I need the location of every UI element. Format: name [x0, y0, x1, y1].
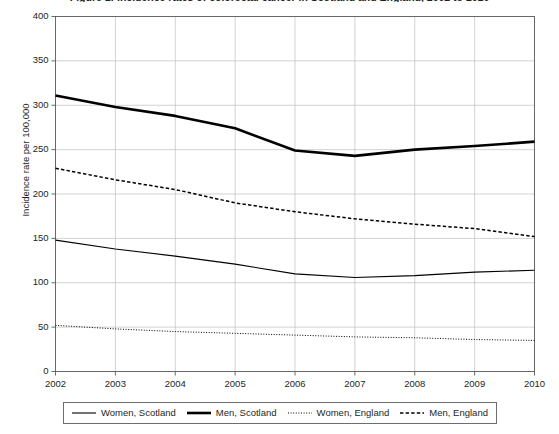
- legend-label: Women, Scotland: [101, 408, 176, 418]
- legend-item[interactable]: Women, Scotland: [72, 408, 176, 418]
- legend-line-icon: [187, 408, 211, 418]
- legend-label: Women, England: [317, 408, 390, 418]
- legend-line-icon: [400, 408, 424, 418]
- legend-item[interactable]: Men, Scotland: [187, 408, 277, 418]
- y-tick-label: 400: [33, 10, 49, 21]
- line-chart: Figure 1: Incidence rates of colorectal …: [0, 0, 559, 434]
- y-tick-label: 300: [33, 99, 49, 110]
- legend-label: Men, Scotland: [216, 408, 277, 418]
- plot-area: 050100150200250300350400 200220032004200…: [0, 0, 559, 400]
- chart-legend: Women, ScotlandMen, ScotlandWomen, Engla…: [63, 402, 497, 424]
- y-tick-label: 250: [33, 143, 49, 154]
- y-tick-label: 200: [33, 188, 49, 199]
- y-tick-label: 100: [33, 276, 49, 287]
- x-axis-ticks: [56, 372, 535, 376]
- legend-item[interactable]: Men, England: [400, 408, 488, 418]
- y-axis-ticks: [52, 17, 56, 372]
- y-tick-label: 150: [33, 232, 49, 243]
- x-tick-label: 2003: [105, 378, 126, 389]
- y-tick-label: 350: [33, 54, 49, 65]
- y-tick-label: 50: [38, 321, 49, 332]
- x-tick-label: 2010: [524, 378, 545, 389]
- y-tick-label: 0: [43, 365, 48, 376]
- legend-item[interactable]: Women, England: [288, 408, 390, 418]
- x-tick-label: 2004: [165, 378, 186, 389]
- legend-line-icon: [288, 408, 312, 418]
- x-tick-label: 2007: [344, 378, 365, 389]
- x-tick-label: 2009: [464, 378, 485, 389]
- x-tick-label: 2008: [404, 378, 425, 389]
- legend-line-icon: [72, 408, 96, 418]
- x-tick-label: 2006: [284, 378, 305, 389]
- legend-label: Men, England: [429, 408, 488, 418]
- x-axis-tick-labels: 200220032004200520062007200820092010: [45, 378, 545, 389]
- x-tick-label: 2005: [225, 378, 246, 389]
- x-tick-label: 2002: [45, 378, 66, 389]
- y-axis-tick-labels: 050100150200250300350400: [33, 10, 49, 376]
